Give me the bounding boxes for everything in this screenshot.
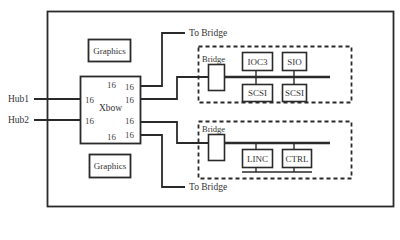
scsi-label-1: SCSI <box>243 85 272 101</box>
port-top-right: 16 <box>125 83 134 92</box>
port-left-upper: 16 <box>85 96 94 105</box>
graphics-bottom-label: Graphics <box>90 155 130 177</box>
xbow-label: Xbow <box>99 103 122 113</box>
upper-bridge-box <box>209 65 225 91</box>
port-top-left: 16 <box>107 81 116 90</box>
upper-bridge-label: Bridge <box>202 54 225 64</box>
linc-label: LINC <box>243 150 272 167</box>
port-lower-right: 16 <box>125 117 134 126</box>
scsi-label-2: SCSI <box>283 85 306 101</box>
sio-label: SIO <box>283 53 306 70</box>
to-bridge-top-link <box>140 33 185 86</box>
ctrl-label: CTRL <box>283 150 311 167</box>
to-bridge-top-label: To Bridge <box>189 28 227 38</box>
ioc3-label: IOC3 <box>243 53 272 70</box>
hub2-label: Hub2 <box>8 115 29 125</box>
port-left-lower: 16 <box>85 117 94 126</box>
port-bottom-right: 16 <box>125 131 134 140</box>
port-bottom-left: 16 <box>107 133 116 142</box>
graphics-top-label: Graphics <box>89 40 130 61</box>
port-upper-right: 16 <box>125 96 134 105</box>
upper-bridge-link <box>140 77 208 99</box>
lower-bridge-box <box>209 135 225 161</box>
lower-bridge-label: Bridge <box>202 124 225 134</box>
hub1-label: Hub1 <box>8 94 29 104</box>
to-bridge-bottom-label: To Bridge <box>189 182 227 192</box>
